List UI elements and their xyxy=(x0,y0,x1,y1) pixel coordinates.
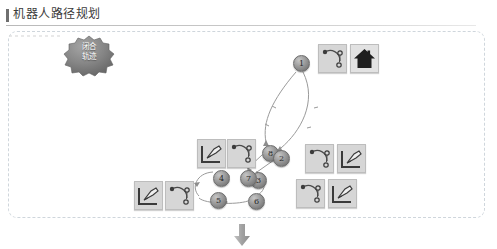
cloud-label-line1: 闭合 xyxy=(62,42,116,52)
thumb-trajectory-top[interactable] xyxy=(318,44,347,73)
screen-root: 机器人路径规划 xyxy=(0,0,497,249)
tool-icon xyxy=(329,180,356,207)
page-header: 机器人路径规划 xyxy=(6,6,476,28)
flow-down-arrow xyxy=(233,224,251,247)
thumb-trajectory-bottom-right[interactable] xyxy=(296,179,325,208)
graph-node-7[interactable]: 7 xyxy=(240,170,257,187)
cloud-label: 闭合 轨迹 xyxy=(62,42,116,61)
title-accent-bar xyxy=(6,9,9,22)
graph-node-1[interactable]: 1 xyxy=(293,55,310,72)
thumb-home[interactable] xyxy=(350,44,379,73)
thumb-tool-bottom-left[interactable] xyxy=(134,181,163,210)
home-icon xyxy=(351,45,378,72)
thumb-tool-mid-right[interactable] xyxy=(337,144,366,173)
page-title: 机器人路径规划 xyxy=(13,6,101,23)
trajectory-icon xyxy=(166,182,193,209)
title-divider xyxy=(6,25,476,26)
graph-node-2[interactable]: 2 xyxy=(273,150,290,167)
thumb-trajectory-bottom-left[interactable] xyxy=(165,181,194,210)
trajectory-icon xyxy=(306,145,333,172)
tool-icon xyxy=(338,145,365,172)
thumb-trajectory-mid-left[interactable] xyxy=(227,139,256,168)
cloud-label-line2: 轨迹 xyxy=(62,52,116,62)
trajectory-cloud: 闭合 轨迹 xyxy=(62,34,116,78)
graph-node-4[interactable]: 4 xyxy=(213,170,230,187)
tool-icon xyxy=(135,182,162,209)
thumb-trajectory-mid-right[interactable] xyxy=(305,144,334,173)
trajectory-icon xyxy=(228,140,255,167)
trajectory-icon xyxy=(297,180,324,207)
graph-node-5[interactable]: 5 xyxy=(210,192,227,209)
tool-icon xyxy=(198,140,225,167)
thumb-tool-bottom-right[interactable] xyxy=(328,179,357,208)
trajectory-icon xyxy=(319,45,346,72)
graph-node-6[interactable]: 6 xyxy=(248,193,265,210)
thumb-tool-mid-left[interactable] xyxy=(197,139,226,168)
